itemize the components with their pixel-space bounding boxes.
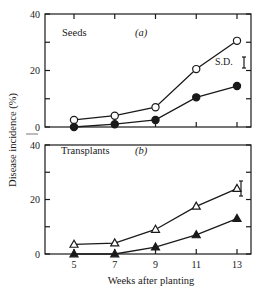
x-axis-label: Weeks after planting	[108, 275, 195, 286]
data-point-circle-filled	[70, 123, 77, 130]
sd-label: S.D.	[215, 56, 233, 67]
axis-frame-b	[45, 145, 251, 254]
disease-incidence-chart: Disease incidence (%) Weeks after planti…	[0, 0, 262, 292]
x-tick-label: 13	[232, 259, 242, 270]
data-point-triangle-open	[233, 184, 241, 191]
panel-tag-a: (a)	[135, 27, 148, 39]
data-point-circle-open	[152, 104, 159, 111]
data-point-circle-filled	[111, 121, 118, 128]
x-tick-label: 7	[112, 259, 117, 270]
data-point-circle-open	[70, 116, 77, 123]
panel-transplants: Transplants (b) 020405791113	[30, 140, 251, 271]
y-axis-label: Disease incidence (%)	[7, 93, 19, 187]
y-tick-label: 40	[30, 140, 40, 151]
y-tick-label: 40	[30, 9, 40, 20]
panel-tag-b: (b)	[135, 145, 148, 157]
y-tick-label: 20	[30, 194, 40, 205]
y-tick-label: 20	[30, 65, 40, 76]
panel-title-transplants: Transplants	[61, 145, 110, 156]
data-point-triangle-filled	[233, 214, 241, 221]
panel-title-seeds: Seeds	[62, 27, 87, 38]
data-point-circle-filled	[233, 82, 240, 89]
data-point-circle-filled	[152, 116, 159, 123]
data-point-circle-filled	[193, 94, 200, 101]
data-point-triangle-filled	[70, 250, 78, 257]
data-point-circle-open	[233, 37, 240, 44]
y-tick-label: 0	[35, 249, 40, 260]
panel-seeds: Seeds (a) S.D. 02040	[30, 9, 251, 133]
series-line-triangle-open	[74, 189, 237, 245]
data-point-triangle-open	[152, 225, 160, 232]
x-tick-label: 11	[191, 259, 201, 270]
x-tick-label: 9	[153, 259, 158, 270]
data-point-circle-open	[111, 112, 118, 119]
y-tick-label: 0	[35, 122, 40, 133]
data-point-circle-open	[193, 65, 200, 72]
x-tick-label: 5	[72, 259, 77, 270]
